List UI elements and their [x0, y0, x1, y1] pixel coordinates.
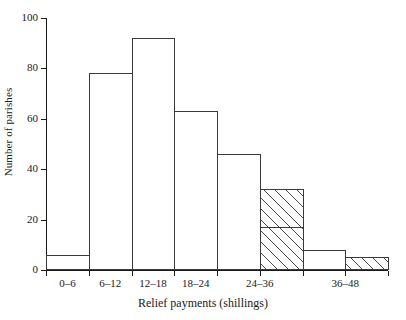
- x-axis-label: Relief payments (shillings): [0, 296, 406, 311]
- x-tick: [388, 271, 389, 276]
- histogram-bar: [174, 111, 218, 270]
- y-axis-line: [46, 18, 47, 270]
- x-tick: [345, 271, 346, 276]
- y-tick: [41, 18, 46, 19]
- x-tick: [132, 271, 133, 276]
- x-tick: [46, 271, 47, 276]
- y-tick-label: 100: [2, 11, 38, 23]
- y-tick: [41, 119, 46, 120]
- y-tick: [41, 220, 46, 221]
- y-tick: [41, 169, 46, 170]
- x-tick: [303, 271, 304, 276]
- histogram-bar: [303, 250, 347, 270]
- histogram-bar: [260, 189, 304, 270]
- histogram-bar: [132, 38, 176, 270]
- histogram-bar: [345, 257, 389, 270]
- y-tick-label: 40: [2, 162, 38, 174]
- x-tick-label: 36–48: [315, 277, 375, 289]
- y-axis-label: Number of parishes: [2, 0, 14, 52]
- histogram-bar: [46, 255, 90, 270]
- y-tick-label: 60: [2, 112, 38, 124]
- y-tick-label: 0: [2, 263, 38, 275]
- x-tick: [174, 271, 175, 276]
- x-tick-label: 18–24: [166, 277, 226, 289]
- y-tick-label: 20: [2, 213, 38, 225]
- histogram-bar: [89, 73, 133, 270]
- histogram-bar: [217, 154, 261, 270]
- x-tick: [260, 271, 261, 276]
- x-tick: [89, 271, 90, 276]
- x-tick: [217, 271, 218, 276]
- bar-step-line: [260, 227, 303, 228]
- y-tick-label: 80: [2, 61, 38, 73]
- y-tick: [41, 68, 46, 69]
- histogram-figure: Number of parishes 020406080100 0–66–121…: [0, 0, 406, 320]
- x-tick-label: 24–36: [230, 277, 290, 289]
